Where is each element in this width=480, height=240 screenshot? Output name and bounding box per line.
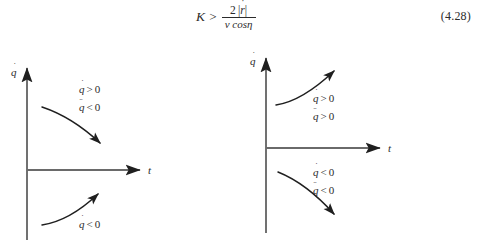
annot-val-3: 0 <box>95 218 101 230</box>
equation-relation-symbol: > <box>209 9 216 25</box>
svg-text:q<0: q<0 <box>79 101 101 113</box>
annot-rel-2: < <box>87 101 93 113</box>
annot-val-7: 0 <box>329 184 335 196</box>
annot-val-6: 0 <box>329 166 335 178</box>
y-axis-label: q ˙ <box>11 61 17 78</box>
equation-numerator: 2 |˙r| <box>228 4 249 17</box>
upper-curve-annotation-1: q>0 ˙ <box>313 87 335 104</box>
annot-rel-1: > <box>87 83 93 95</box>
annot-val-5: 0 <box>329 110 335 122</box>
annot-rel-3: < <box>87 218 93 230</box>
equation-number: (4.28) <box>441 9 471 24</box>
annot-dot-6: ˙ <box>315 161 318 171</box>
annot-rel-6: < <box>321 166 327 178</box>
annot-dot-1: ˙ <box>81 78 84 88</box>
annot-dot-3: ˙ <box>81 213 84 223</box>
figure-right: q ˙ t q>0 ˙ q>0 ¨ <box>232 46 480 240</box>
lower-curve-annotation-1: q<0 ˙ <box>79 213 101 230</box>
equation-4-28: K > 2 |˙r| v cosη <box>196 4 256 31</box>
equation-fraction: 2 |˙r| v cosη <box>222 4 256 31</box>
annot-rel-7: < <box>321 184 327 196</box>
upper-curve-annotation-1: q>0 ˙ <box>79 78 101 95</box>
lower-curve-annotation-1: q<0 ˙ <box>313 161 335 178</box>
x-axis-label: t <box>388 142 392 154</box>
annot-val-4: 0 <box>329 92 335 104</box>
r-dot-accent: ˙ <box>241 0 244 9</box>
r-dot-variable: ˙r <box>240 4 244 16</box>
svg-text:q<0: q<0 <box>313 184 335 196</box>
scanned-page-fragment: K > 2 |˙r| v cosη (4.28) <box>0 0 480 240</box>
y-axis-label-dot: ˙ <box>252 50 255 60</box>
y-axis-label: q ˙ <box>250 50 256 67</box>
annot-rel-5: > <box>321 110 327 122</box>
equation-left-hand-side: K <box>196 9 205 25</box>
annot-rel-4: > <box>321 92 327 104</box>
figure-left: q ˙ t q>0 ˙ q<0 ¨ <box>0 46 200 240</box>
annot-val-1: 0 <box>95 83 101 95</box>
annot-dot-4: ˙ <box>315 87 318 97</box>
equation-denominator: v cosη <box>223 18 255 31</box>
svg-text:q>0: q>0 <box>313 110 335 122</box>
upper-curve-annotation-2: q>0 ¨ <box>313 105 335 122</box>
x-axis-label: t <box>148 164 152 176</box>
lower-curve-annotation-2: q<0 ¨ <box>313 179 335 196</box>
annot-val-2: 0 <box>95 101 101 113</box>
equation-band: K > 2 |˙r| v cosη (4.28) <box>0 0 480 46</box>
upper-curve-annotation-2: q<0 ¨ <box>79 96 101 113</box>
y-axis-label-dot: ˙ <box>13 61 16 71</box>
